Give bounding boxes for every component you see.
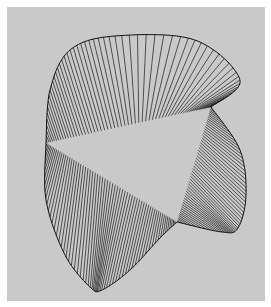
upper-patch-rule-line <box>191 80 240 111</box>
upper-patch-rule-line <box>142 35 146 122</box>
lower-left-patch-rule-line <box>77 168 88 273</box>
lower-left-patch-rule-line <box>88 174 98 285</box>
upper-patch-rule-line <box>162 40 195 118</box>
right-patch-rule-line <box>197 155 246 202</box>
lower-left-patch-rule-line <box>80 170 90 277</box>
right-patch-rule-line <box>185 196 231 233</box>
upper-patch-rule-line <box>56 72 77 137</box>
upper-patch-rule-line <box>53 81 72 138</box>
upper-patch-rule-line <box>198 90 236 110</box>
upper-patch-rule-line <box>64 56 89 134</box>
upper-patch-rule-line <box>196 87 239 111</box>
lower-left-patch-rule-line <box>145 209 155 254</box>
upper-patch-rule-line <box>103 37 121 126</box>
lower-left-patch-rule-line <box>122 200 140 277</box>
upper-patch-rule-line <box>62 60 86 135</box>
upper-patch-outline <box>46 35 240 143</box>
upper-patch-rule-line <box>152 36 172 120</box>
right-patch-rule-line <box>205 127 241 155</box>
upper-patch-rule-line <box>165 43 201 117</box>
right-patch-rule-line <box>193 168 242 218</box>
upper-patch-rule-line <box>70 50 95 132</box>
upper-patch-rule-line <box>149 35 164 121</box>
ruled-surface-figure <box>0 0 271 307</box>
lower-left-patch-rule-line <box>66 163 79 257</box>
lower-left-patch-rule-line <box>71 166 83 266</box>
lower-left-patch-rule-line <box>139 206 151 261</box>
upper-patch-rule-line <box>138 35 139 123</box>
lower-left-patch-rule-line <box>125 201 142 274</box>
upper-patch-rule-line <box>98 38 118 127</box>
upper-patch-rule-line <box>178 59 225 115</box>
right-patch-rule-line <box>198 153 246 199</box>
lower-left-patch-rule-line <box>119 198 138 279</box>
right-patch-rule-line <box>208 117 230 132</box>
rule-lines <box>45 35 247 292</box>
upper-patch-rule-line <box>146 35 155 122</box>
upper-patch-rule-line <box>57 68 79 136</box>
lower-left-patch-rule-line <box>149 210 157 250</box>
lower-left-patch-rule-line <box>83 171 93 280</box>
lower-left-patch-rule-line <box>69 164 81 261</box>
upper-patch-rule-line <box>59 64 82 136</box>
upper-patch-rule-line <box>67 53 92 133</box>
